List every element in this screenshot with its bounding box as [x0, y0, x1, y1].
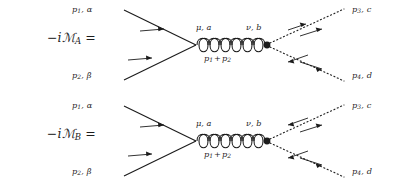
leg-label-p2-b: p2, β	[72, 166, 92, 176]
propagator-momentum-label-b: p1+p2	[204, 149, 231, 159]
leg-label-p1-b: p1, α	[72, 100, 92, 110]
diagram-b-graphics	[0, 96, 394, 192]
outgoing-line-p3-b	[270, 105, 344, 139]
leg-label-p3-b: p3, c	[352, 100, 371, 110]
momentum-arrow-p4b-a	[300, 62, 322, 72]
feynman-diagram-a: −iℳA=	[0, 0, 394, 96]
vertex-label-mu-b: μ, a	[196, 118, 211, 128]
momentum-arrow-p3a-a	[288, 23, 306, 30]
vertex-dot-right-a	[264, 42, 271, 49]
vertex-label-nu-a: ν, b	[246, 22, 261, 32]
vertex-dot-right-b	[264, 138, 271, 145]
momentum-arrow-p2-b	[128, 152, 152, 157]
propagator-momentum-label-a: p1+p2	[204, 53, 231, 63]
feynman-diagram-b: −iℳB=	[0, 96, 394, 192]
figure-canvas: −iℳA=	[0, 0, 394, 193]
leg-label-p4-a: p4, d	[352, 70, 372, 80]
leg-label-p2-a: p2, β	[72, 70, 92, 80]
gluon-propagator-b	[197, 134, 265, 148]
leg-label-p1-a: p1, α	[72, 4, 92, 14]
incoming-line-p2-a	[124, 45, 196, 80]
vertex-label-nu-b: ν, b	[246, 118, 261, 128]
leg-label-p4-b: p4, d	[352, 166, 372, 176]
momentum-arrow-p3b-b	[300, 124, 322, 132]
outgoing-line-p3-a	[270, 9, 344, 43]
momentum-arrow-p2-a	[128, 56, 152, 61]
vertex-label-mu-a: μ, a	[196, 22, 211, 32]
diagram-a-graphics	[0, 0, 394, 96]
leg-label-p3-a: p3, c	[352, 4, 371, 14]
gluon-propagator-a	[197, 38, 265, 52]
incoming-line-p2-b	[124, 141, 196, 176]
momentum-arrow-p4b-b	[300, 158, 322, 168]
momentum-arrow-p3a-b	[288, 118, 308, 126]
momentum-arrow-p3b-a	[300, 28, 322, 36]
